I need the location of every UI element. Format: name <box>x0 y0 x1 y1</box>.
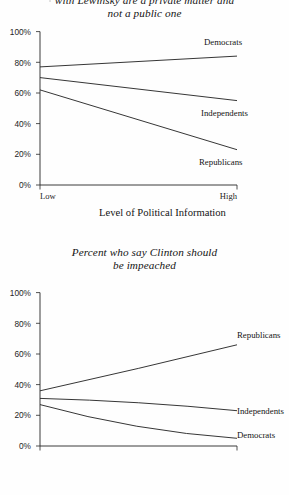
figure-1-x-tickmarks <box>40 185 237 190</box>
figure-1-ytick-40: 40% <box>14 119 31 129</box>
figure-2-label-republicans: Republicans <box>237 330 281 340</box>
figure-1-title: with Lewinsky are a private matter and n… <box>20 0 270 23</box>
figure-2-label-democrats: Democrats <box>237 430 276 440</box>
figure-1-line-democrats <box>40 56 237 67</box>
figure-1-x-axis-caption: Level of Political Information <box>0 207 289 218</box>
figure-2-title: Percent who say Clinton should be impeac… <box>20 246 270 275</box>
figure-1-ytick-60: 60% <box>14 88 31 98</box>
figure-2-line-independents <box>40 398 237 410</box>
figure-page: with Lewinsky are a private matter and n… <box>0 0 289 495</box>
figure-2-title-line-1: Percent who say Clinton should <box>20 246 270 259</box>
figure-2-ytick-80: 80% <box>14 318 31 328</box>
figure-2-ytick-40: 40% <box>14 380 31 390</box>
figure-1-y-tickmarks <box>36 31 40 184</box>
figure-2-title-line-2: be impeached <box>20 259 270 272</box>
figure-2-ytick-100: 100% <box>10 288 32 298</box>
figure-2-line-republicans <box>40 345 237 391</box>
figure-1-title-line-1: with Lewinsky are a private matter and <box>20 0 270 7</box>
figure-2-y-tickmarks <box>36 292 40 445</box>
figure-2-label-independents: Independents <box>237 405 284 415</box>
figure-1-svg: 100% 80% 60% 40% 20% 0% <box>0 23 289 208</box>
figure-2-x-tickmarks <box>40 446 237 451</box>
figure-1-ytick-80: 80% <box>14 57 31 67</box>
figure-1-line-republicans <box>40 90 237 150</box>
figure-2-ytick-60: 60% <box>14 349 31 359</box>
figure-2-cropped-x-axis-caption: Level of Political Information <box>58 491 228 495</box>
figure-1-label-democrats: Democrats <box>204 37 243 47</box>
figure-1-ytick-0: 0% <box>19 180 32 190</box>
figure-1-line-independents <box>40 77 237 100</box>
figure-1-label-independents: Independents <box>201 107 248 117</box>
figure-2-ytick-20: 20% <box>14 410 31 420</box>
figure-2-plot: 100% 80% 60% 40% 20% 0% <box>0 275 289 460</box>
figure-clinton-impeached: Percent who say Clinton should be impeac… <box>0 246 289 460</box>
figure-2-ytick-0: 0% <box>19 441 32 451</box>
figure-1-ytick-20: 20% <box>14 149 31 159</box>
figure-1-label-republicans: Republicans <box>199 156 243 166</box>
figure-1-xtick-high: High <box>220 191 238 201</box>
figure-1-ytick-100: 100% <box>10 27 32 37</box>
figure-2-svg: 100% 80% 60% 40% 20% 0% <box>0 275 289 460</box>
figure-1-plot: 100% 80% 60% 40% 20% 0% <box>0 23 289 208</box>
figure-2-x-axis-caption-text: Level of Political Information <box>58 491 228 493</box>
figure-1-title-line-2: not a public one <box>20 7 270 20</box>
figure-2-line-democrats <box>40 404 237 438</box>
figure-clinton-private-matter: with Lewinsky are a private matter and n… <box>0 0 289 218</box>
figure-1-xtick-low: Low <box>40 191 57 201</box>
